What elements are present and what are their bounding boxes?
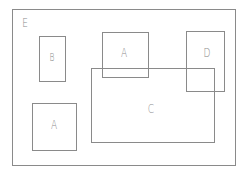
diagram-canvas: E B A D C A: [0, 0, 246, 175]
label-a-top: A: [121, 47, 127, 59]
label-d: D: [204, 47, 211, 59]
label-c: C: [148, 103, 154, 115]
label-b: B: [50, 53, 55, 63]
label-e: E: [22, 17, 28, 29]
label-a-bottom: A: [51, 119, 57, 131]
